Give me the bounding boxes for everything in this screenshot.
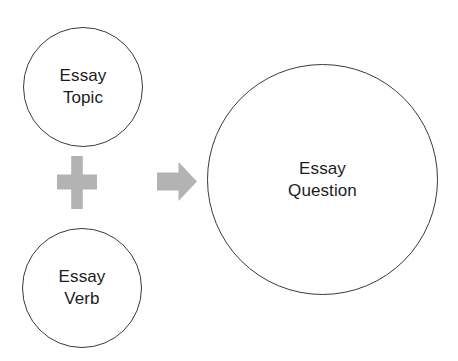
node-essay-topic: Essay Topic <box>23 27 143 147</box>
node-essay-question: Essay Question <box>207 64 438 295</box>
node-essay-verb: Essay Verb <box>22 228 142 348</box>
node-essay-question-label: Essay Question <box>288 158 357 202</box>
node-essay-topic-label: Essay Topic <box>60 65 107 109</box>
arrow-right-icon <box>157 162 197 201</box>
plus-icon <box>57 156 97 209</box>
essay-question-diagram: Essay Topic Essay Verb Essay Question <box>0 0 458 361</box>
node-essay-verb-label: Essay Verb <box>59 266 106 310</box>
